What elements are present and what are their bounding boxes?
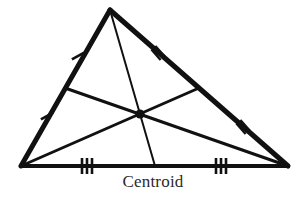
triangle-medians xyxy=(21,10,288,166)
centroid-diagram-canvas xyxy=(0,0,306,201)
median-from-apex xyxy=(110,10,155,166)
centroid-point xyxy=(135,109,144,118)
triangle-sides xyxy=(21,10,288,166)
median-from-right-vertex xyxy=(65,88,288,166)
centroid-diagram-figure: Centroid xyxy=(0,0,306,201)
